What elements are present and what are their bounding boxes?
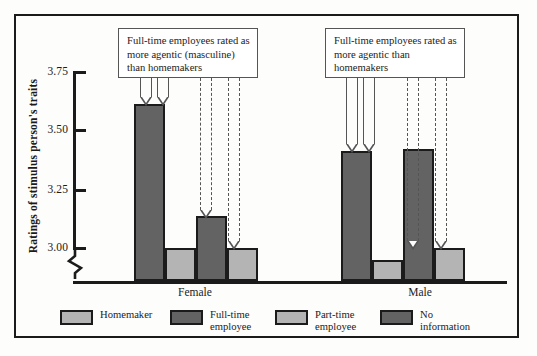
bar-female-no-information: [196, 216, 227, 281]
legend-item-homemaker: Homemaker: [60, 309, 152, 325]
figure-container: 3.75 3.50 3.25 3.00 Ratings of stimulus …: [0, 0, 537, 356]
legend: Homemaker Full-time employee Part-time e…: [60, 309, 480, 343]
legend-swatch-homemaker: [60, 310, 93, 325]
bar-male-part-time-employee: [434, 248, 465, 281]
bar-female-part-time-employee: [227, 248, 258, 281]
legend-label-part-time-employee: Part-time employee: [315, 309, 356, 333]
legend-label-no-information: No information: [420, 309, 470, 333]
legend-swatch-part-time-employee: [275, 310, 308, 325]
y-axis-line: [73, 71, 76, 249]
legend-label-full-time-employee: Full-time employee: [210, 309, 251, 333]
bar-male-full-time-employee: [341, 151, 372, 281]
legend-item-full-time-employee: Full-time employee: [170, 309, 251, 333]
axis-break-icon: [66, 249, 84, 279]
legend-swatch-full-time-employee: [170, 310, 203, 325]
y-tick-350: [73, 129, 86, 132]
y-tick-325: [73, 189, 86, 192]
legend-item-part-time-employee: Part-time employee: [275, 309, 356, 333]
bar-female-homemaker: [165, 248, 196, 281]
x-axis-line: [73, 281, 507, 284]
bar-female-full-time-employee: [134, 104, 165, 281]
callout-female: Full-time employees rated as more agenti…: [118, 28, 258, 78]
y-tick-375: [73, 71, 86, 74]
callout-male: Full-time employees rated as more agenti…: [325, 28, 465, 78]
x-group-label-female: Female: [140, 286, 250, 298]
bar-male-homemaker: [372, 260, 403, 281]
legend-swatch-no-information: [380, 310, 413, 325]
legend-label-homemaker: Homemaker: [100, 309, 152, 321]
y-axis-title: Ratings of stimulus person's traits: [27, 71, 39, 261]
x-group-label-male: Male: [365, 286, 475, 298]
legend-item-no-information: No information: [380, 309, 470, 333]
